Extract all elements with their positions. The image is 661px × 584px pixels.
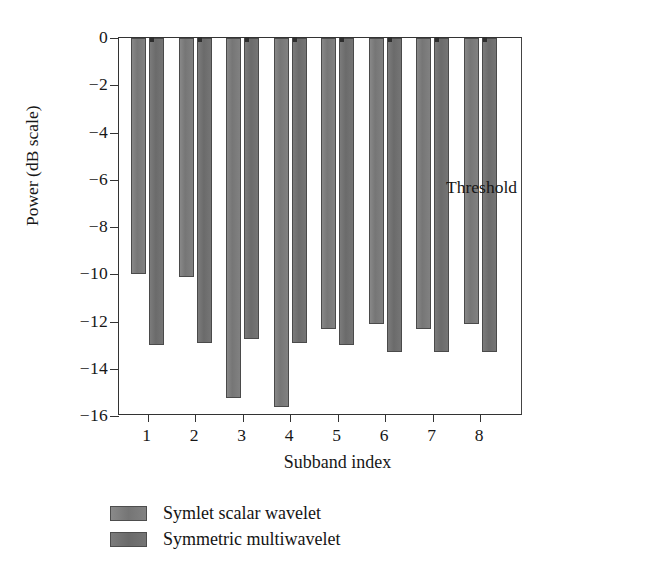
- chart-figure: Power (dB scale) Threshold Subband index…: [0, 0, 661, 584]
- plot-area: Threshold: [118, 37, 522, 415]
- bar-series-2-category-3[interactable]: [244, 38, 259, 339]
- x-tick-label-7: 7: [427, 425, 436, 446]
- x-tick-mark-3: [243, 414, 244, 422]
- legend-item-symlet-scalar-wavelet[interactable]: Symlet scalar wavelet: [110, 500, 340, 526]
- y-tick-mark-3: [110, 180, 119, 181]
- x-tick-mark-1: [148, 414, 149, 422]
- x-tick-mark-2: [195, 414, 196, 422]
- x-tick-label-8: 8: [475, 425, 484, 446]
- x-tick-label-2: 2: [190, 425, 199, 446]
- x-axis-title: Subband index: [0, 452, 661, 473]
- legend-label-series-2: Symmetric multiwavelet: [163, 529, 340, 550]
- bar-series-1-category-5[interactable]: [321, 38, 336, 329]
- bar-top-marker: [293, 37, 297, 42]
- y-tick-mark-7: [110, 369, 119, 370]
- x-tick-mark-4: [290, 414, 291, 422]
- y-tick-label-7: −14: [0, 357, 108, 378]
- legend-label-series-1: Symlet scalar wavelet: [163, 503, 321, 524]
- x-tick-label-4: 4: [285, 425, 294, 446]
- y-tick-label-4: −8: [0, 216, 108, 237]
- bar-top-marker: [483, 37, 487, 42]
- threshold-label: Threshold: [444, 177, 519, 198]
- x-tick-mark-7: [433, 414, 434, 422]
- bar-top-marker: [150, 37, 154, 42]
- y-tick-mark-6: [110, 322, 119, 323]
- x-tick-mark-6: [385, 414, 386, 422]
- x-tick-label-5: 5: [332, 425, 341, 446]
- x-tick-label-1: 1: [142, 425, 151, 446]
- bar-top-marker: [245, 37, 249, 42]
- bar-series-2-category-6[interactable]: [387, 38, 402, 352]
- legend-item-symmetric-multiwavelet[interactable]: Symmetric multiwavelet: [110, 526, 340, 552]
- legend-swatch-icon-series-2: [110, 532, 147, 547]
- bar-series-1-category-4[interactable]: [274, 38, 289, 407]
- y-tick-label-5: −10: [0, 263, 108, 284]
- y-tick-mark-4: [110, 227, 119, 228]
- bar-series-1-category-2[interactable]: [179, 38, 194, 277]
- bar-top-marker: [198, 37, 202, 42]
- bar-top-marker: [340, 37, 344, 42]
- y-tick-label-2: −4: [0, 121, 108, 142]
- bar-top-marker: [435, 37, 439, 42]
- x-tick-label-3: 3: [237, 425, 246, 446]
- y-tick-mark-1: [110, 85, 119, 86]
- x-tick-label-6: 6: [380, 425, 389, 446]
- y-tick-label-1: −2: [0, 74, 108, 95]
- bar-series-1-category-7[interactable]: [416, 38, 431, 329]
- y-tick-mark-2: [110, 133, 119, 134]
- bar-series-2-category-1[interactable]: [149, 38, 164, 345]
- x-tick-mark-5: [338, 414, 339, 422]
- y-tick-label-0: 0: [0, 27, 108, 48]
- y-tick-label-8: −16: [0, 405, 108, 426]
- y-tick-mark-0: [110, 38, 119, 39]
- x-tick-mark-8: [480, 414, 481, 422]
- bar-series-1-category-3[interactable]: [226, 38, 241, 398]
- y-tick-label-3: −6: [0, 168, 108, 189]
- bar-series-1-category-6[interactable]: [369, 38, 384, 324]
- bar-series-2-category-2[interactable]: [197, 38, 212, 343]
- bar-top-marker: [388, 37, 392, 42]
- legend-swatch-icon-series-1: [110, 506, 147, 521]
- bar-series-1-category-1[interactable]: [131, 38, 146, 274]
- bar-series-2-category-4[interactable]: [292, 38, 307, 343]
- chart-legend: Symlet scalar wavelet Symmetric multiwav…: [110, 500, 340, 552]
- y-tick-mark-5: [110, 274, 119, 275]
- y-tick-mark-8: [110, 416, 119, 417]
- y-tick-label-6: −12: [0, 310, 108, 331]
- bar-series-2-category-5[interactable]: [339, 38, 354, 345]
